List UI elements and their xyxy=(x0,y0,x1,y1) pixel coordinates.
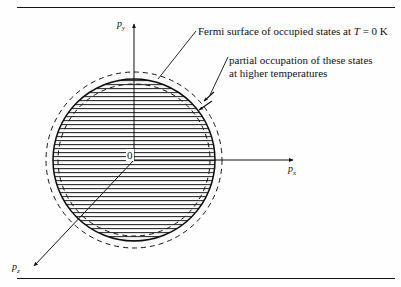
fermi-surface-caption-tail: = 0 K xyxy=(360,25,388,37)
band-arrow-outer xyxy=(204,92,214,101)
origin-label: 0 xyxy=(126,149,134,161)
figure-canvas: py px pz 0 Fermi surface of occupied sta… xyxy=(0,0,401,287)
partial-occupation-caption-line1: partial occupation of these states xyxy=(229,54,373,67)
fermi-surface-leader-line xyxy=(158,31,196,79)
fermi-surface-caption: Fermi surface of occupied states at T = … xyxy=(198,25,388,38)
fermi-surface-caption-text: Fermi surface of occupied states at xyxy=(198,25,354,37)
partial-occupation-caption-line2: at higher temperatures xyxy=(229,67,327,80)
py-axis-label: py xyxy=(117,18,125,32)
px-axis-label: px xyxy=(288,163,296,177)
diagram-vector xyxy=(0,0,401,287)
pz-axis-label: pz xyxy=(12,261,20,275)
partial-occupation-leader-line xyxy=(210,57,228,95)
